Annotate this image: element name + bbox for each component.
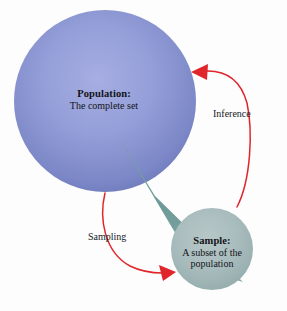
diagram-graphics	[0, 0, 287, 311]
population-circle	[14, 10, 196, 192]
inference-arrowhead	[191, 64, 208, 80]
diagram-canvas: Population: The complete set Sample: A s…	[0, 0, 287, 311]
inference-arrow-curve	[204, 71, 250, 207]
sampling-arrowhead	[159, 265, 176, 281]
sample-circle	[171, 208, 253, 290]
sampling-arrow-curve	[103, 193, 163, 273]
